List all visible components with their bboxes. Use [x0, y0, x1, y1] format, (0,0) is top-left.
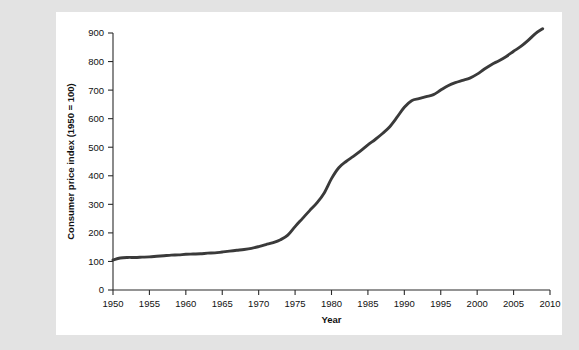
y-tick-label: 600 — [88, 113, 104, 124]
y-tick-label: 500 — [88, 142, 104, 153]
x-tick-label: 2010 — [539, 298, 560, 309]
x-tick-label: 1990 — [394, 298, 415, 309]
x-tick-label: 1955 — [139, 298, 160, 309]
x-tick-label: 1950 — [102, 298, 123, 309]
cpi-series-line — [113, 29, 543, 260]
y-tick-label: 0 — [99, 284, 104, 295]
x-axis-title: Year — [321, 314, 341, 325]
y-tick-label: 200 — [88, 227, 104, 238]
x-tick-label: 1975 — [285, 298, 306, 309]
y-tick-label: 100 — [88, 256, 104, 267]
x-tick-label: 1970 — [248, 298, 269, 309]
x-tick-label: 2005 — [503, 298, 524, 309]
x-tick-label: 1980 — [321, 298, 342, 309]
x-tick-label: 1995 — [430, 298, 451, 309]
x-tick-label: 1960 — [175, 298, 196, 309]
figure-panel: 0100200300400500600700800900195019551960… — [56, 12, 562, 335]
x-tick-label: 1965 — [212, 298, 233, 309]
y-tick-label: 400 — [88, 170, 104, 181]
x-tick-label: 2000 — [467, 298, 488, 309]
cpi-line-chart: 0100200300400500600700800900195019551960… — [56, 12, 562, 335]
y-tick-label: 800 — [88, 56, 104, 67]
y-tick-label: 900 — [88, 27, 104, 38]
x-tick-label: 1985 — [357, 298, 378, 309]
y-tick-label: 300 — [88, 199, 104, 210]
y-axis-title: Consumer price index (1950 = 100) — [65, 83, 76, 240]
y-tick-label: 700 — [88, 85, 104, 96]
